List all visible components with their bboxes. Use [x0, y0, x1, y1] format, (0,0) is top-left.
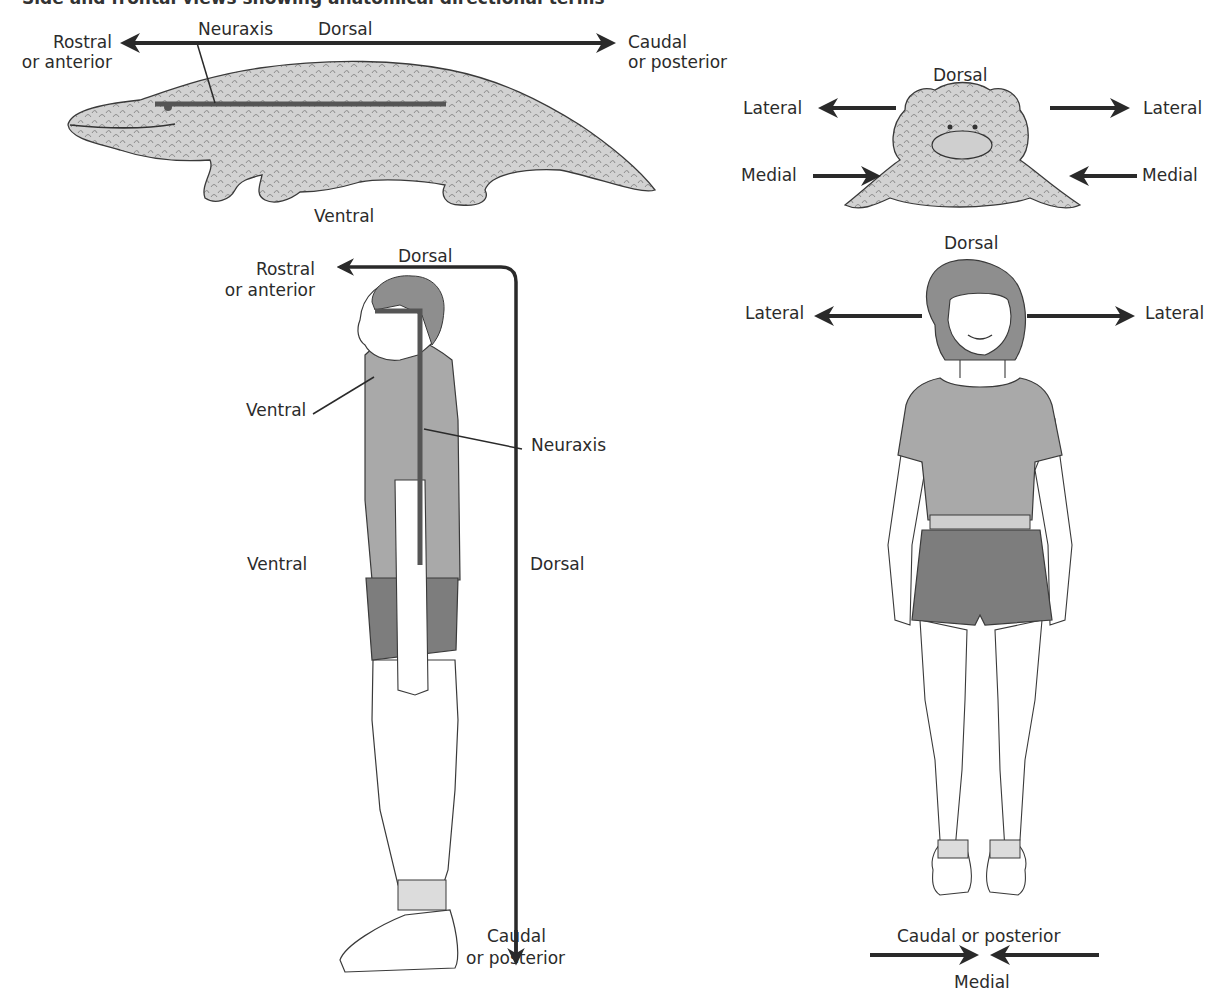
alligator-body — [68, 61, 655, 205]
alligator-medial-left-label: Medial — [741, 165, 797, 186]
man-rostral-label: Rostral — [220, 259, 315, 280]
woman-lateral-right-label: Lateral — [1145, 303, 1204, 324]
alligator-dorsal-label: Dorsal — [318, 19, 372, 40]
man-ventral-body-label: Ventral — [247, 554, 307, 575]
woman-dorsal-label: Dorsal — [944, 233, 998, 254]
man-rostral-sub-label: or anterior — [200, 280, 315, 301]
man-shoe — [340, 910, 458, 972]
woman-lateral-left-label: Lateral — [745, 303, 804, 324]
man-caudal-sub-label: or posterior — [466, 948, 565, 969]
human-side-illustration — [313, 267, 522, 972]
alligator-lateral-left-label: Lateral — [743, 98, 802, 119]
woman-medial-label: Medial — [954, 972, 1010, 993]
woman-shorts — [912, 530, 1052, 625]
alligator-side-illustration — [68, 43, 655, 205]
alligator-rostral-sub-label: or anterior — [0, 52, 112, 73]
man-dorsal-top-label: Dorsal — [398, 246, 452, 267]
alligator-ventral-label: Ventral — [314, 206, 374, 227]
woman-caudal-label: Caudal or posterior — [897, 926, 1060, 947]
man-legs — [372, 660, 458, 900]
alligator-front-dorsal-label: Dorsal — [933, 65, 987, 86]
alligator-rostral-label: Rostral — [20, 32, 112, 53]
alligator-neuraxis-label: Neuraxis — [198, 19, 273, 40]
alligator-front-illustration — [813, 83, 1137, 208]
human-front-illustration — [818, 260, 1131, 955]
alligator-caudal-sub-label: or posterior — [628, 52, 727, 73]
anatomy-diagram — [0, 0, 1219, 1004]
man-caudal-label: Caudal — [487, 926, 546, 947]
man-dorsal-back-label: Dorsal — [530, 554, 584, 575]
man-ventral-neck-label: Ventral — [246, 400, 306, 421]
woman-shirt — [898, 378, 1062, 520]
man-neuraxis-label: Neuraxis — [531, 435, 606, 456]
alligator-medial-right-label: Medial — [1142, 165, 1198, 186]
alligator-lateral-right-label: Lateral — [1143, 98, 1202, 119]
alligator-caudal-label: Caudal — [628, 32, 687, 53]
